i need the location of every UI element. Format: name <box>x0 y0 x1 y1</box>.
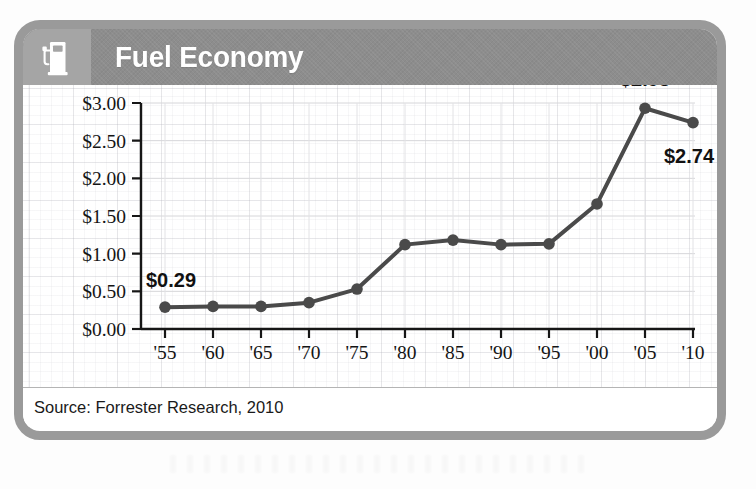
x-axis-tick-label: '80 <box>393 342 416 363</box>
peak-point-label: $2.93 <box>620 85 670 90</box>
x-axis-tick-label: '55 <box>153 342 176 363</box>
y-axis-tick-label: $2.50 <box>82 131 126 152</box>
y-axis-tick-label: $3.00 <box>82 93 126 114</box>
first-point-label: $0.29 <box>146 269 196 291</box>
x-axis-tick-label: '85 <box>441 342 464 363</box>
header-icon-tile <box>23 29 91 85</box>
data-point-marker <box>591 198 603 210</box>
y-axis-tick-label: $1.50 <box>82 206 126 227</box>
x-axis-tick-label: '60 <box>201 342 224 363</box>
x-axis-tick-label: '05 <box>633 342 656 363</box>
data-point-marker <box>495 239 507 251</box>
y-axis-tick-label: $0.00 <box>82 319 126 340</box>
line-chart: $0.00$0.50$1.00$1.50$2.00$2.50$3.00'55'6… <box>23 85 717 387</box>
page-title: Fuel Economy <box>115 42 303 72</box>
page-background: Fuel Economy $0.00$0.50$1.00$1.50$2.00$2… <box>0 0 756 489</box>
chart-plot-area: $0.00$0.50$1.00$1.50$2.00$2.50$3.00'55'6… <box>23 85 717 387</box>
data-point-marker <box>303 297 315 309</box>
chart-header-bar: Fuel Economy <box>23 29 717 85</box>
data-point-marker <box>687 117 699 129</box>
y-axis-tick-label: $1.00 <box>82 244 126 265</box>
x-axis-tick-label: '65 <box>249 342 272 363</box>
data-point-marker <box>351 283 363 295</box>
data-point-marker <box>639 102 651 114</box>
data-point-marker <box>159 301 171 313</box>
x-axis-tick-label: '10 <box>681 342 704 363</box>
fuel-economy-chart-card: Fuel Economy $0.00$0.50$1.00$1.50$2.00$2… <box>14 20 726 440</box>
x-axis-tick-label: '75 <box>345 342 368 363</box>
data-point-marker <box>447 234 459 246</box>
series-line <box>165 108 693 307</box>
gas-pump-icon <box>40 37 74 77</box>
x-axis-tick-label: '95 <box>537 342 560 363</box>
x-axis-tick-label: '70 <box>297 342 320 363</box>
x-axis-tick-label: '00 <box>585 342 608 363</box>
last-point-label: $2.74 <box>664 145 715 167</box>
chart-footer: Source: Forrester Research, 2010 <box>23 388 717 427</box>
data-point-marker <box>207 301 219 313</box>
data-point-marker <box>543 238 555 250</box>
data-point-marker <box>255 301 267 313</box>
x-axis-tick-label: '90 <box>489 342 512 363</box>
data-point-marker <box>399 239 411 251</box>
y-axis-tick-label: $0.50 <box>82 281 126 302</box>
source-citation: Source: Forrester Research, 2010 <box>34 398 283 417</box>
y-axis-tick-label: $2.00 <box>82 168 126 189</box>
